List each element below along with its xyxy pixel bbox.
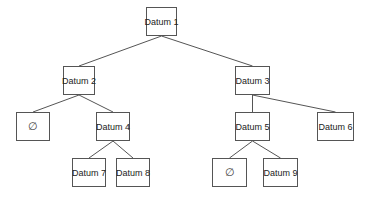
tree-edge [162, 36, 253, 66]
tree-node-d7: Datum 7 [72, 158, 106, 187]
tree-node-d4: Datum 4 [96, 112, 130, 141]
tree-edge [89, 141, 113, 158]
tree-edge [230, 141, 253, 158]
tree-edge [253, 141, 281, 158]
tree-edge [33, 95, 79, 112]
tree-node-d1: Datum 1 [146, 7, 177, 36]
tree-edge [79, 95, 113, 112]
tree-edge [253, 95, 336, 112]
tree-edge [79, 36, 162, 66]
null-node: ∅ [16, 112, 50, 141]
tree-node-d8: Datum 8 [116, 158, 150, 187]
tree-node-d9: Datum 9 [263, 158, 298, 187]
tree-node-d3: Datum 3 [235, 66, 270, 95]
tree-node-d2: Datum 2 [63, 66, 95, 95]
tree-node-d6: Datum 6 [317, 112, 354, 141]
tree-edge [113, 141, 133, 158]
tree-node-d5: Datum 5 [235, 112, 270, 141]
tree-edges [0, 0, 369, 197]
null-node: ∅ [212, 158, 247, 187]
